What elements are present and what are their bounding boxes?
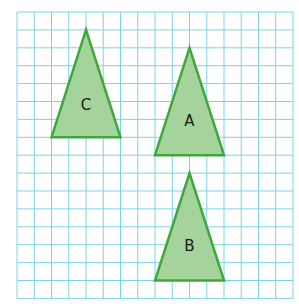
triangle-label: A: [184, 112, 195, 130]
triangle-label: B: [184, 237, 194, 255]
triangle-label: C: [81, 96, 91, 114]
grid-diagram: CAB: [0, 0, 299, 304]
